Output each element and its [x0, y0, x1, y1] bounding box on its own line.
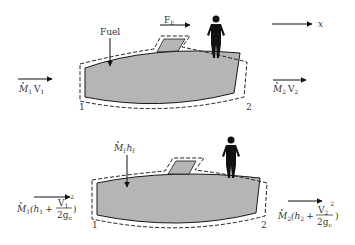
control-volume-diagram: Fuel FE x M1V1 M2V2 1 2 Mfhf M1(h1 [0, 0, 355, 245]
outlet-close-paren: ) [335, 211, 339, 221]
person-icon [222, 137, 240, 179]
station-2-label: 2 [261, 220, 267, 230]
station-1-label: 1 [92, 220, 98, 230]
top-figure: Fuel FE x M1V1 M2V2 1 2 [18, 15, 323, 112]
inlet-label: M1V1 [18, 84, 44, 95]
station-2-label: 2 [246, 102, 252, 112]
outlet-label: M2V2 [272, 84, 299, 95]
top-vessel-body [85, 51, 240, 104]
station-1-label: 1 [79, 102, 85, 112]
inlet-energy-label: M1(h1+ [16, 204, 53, 215]
force-label: FE [164, 15, 175, 26]
x-axis-label: x [318, 19, 323, 29]
bottom-figure: Mfhf M1(h1+ V12 2gc ) M2(h2+ V22 2gc ) 1… [16, 137, 339, 231]
inlet-fraction-den: 2gc [57, 210, 73, 221]
inlet-fraction-num: V12 [57, 193, 74, 209]
bottom-vessel-fin [168, 161, 196, 174]
top-vessel-fin [157, 39, 185, 52]
inlet-close-paren: ) [73, 204, 77, 214]
fuel-label: Fuel [100, 27, 120, 37]
fuel-enthalpy-label: Mfhf [113, 143, 135, 154]
outlet-energy-label: M2(h2+ [277, 211, 314, 222]
bottom-vessel-body [97, 174, 260, 223]
outlet-fraction-num: V22 [317, 200, 334, 216]
outlet-fraction-den: 2gc [317, 217, 333, 228]
